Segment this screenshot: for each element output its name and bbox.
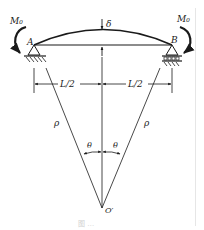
deflected-beam-arc [34, 30, 172, 46]
center-label: O′ [105, 206, 114, 215]
moment-left-label: M₀ [9, 16, 23, 26]
radius-right-label: ρ [143, 118, 150, 128]
moment-arrow-left [15, 27, 26, 53]
moment-right-label: M₀ [176, 14, 190, 24]
angle-left-label: θ [87, 141, 92, 150]
support-b-label: B [170, 35, 178, 45]
pin-support-a [24, 45, 46, 62]
radius-left-label: ρ [53, 118, 60, 128]
beam-diagram: δ A B M₀ M₀ [0, 0, 204, 230]
roller-support-b [162, 45, 182, 66]
support-a-label: A [26, 37, 34, 47]
angle-arc-left [84, 152, 101, 154]
moment-arrow-right [180, 27, 190, 53]
half-span-right-label: L/2 [127, 79, 143, 89]
angle-arc-right [103, 152, 120, 154]
angle-right-label: θ [113, 141, 118, 150]
half-span-left-label: L/2 [59, 79, 75, 89]
deflection-label: δ [106, 19, 111, 29]
figure-caption: 图 … [78, 220, 94, 228]
